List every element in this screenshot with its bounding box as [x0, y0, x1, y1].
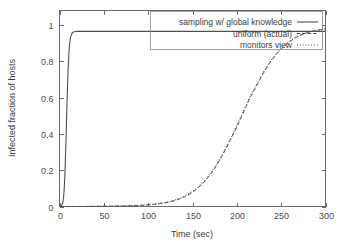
x-tick-label: 100	[141, 211, 156, 221]
y-tick-label: 0.4	[41, 130, 54, 140]
y-axis-title: Infected fraction of hosts	[7, 58, 17, 157]
x-tick-label: 250	[274, 211, 289, 221]
y-tick-label: 0.6	[41, 94, 54, 104]
x-axis-title: Time (sec)	[171, 229, 213, 239]
x-tick-label: 150	[186, 211, 201, 221]
y-tick-label: 0.2	[41, 166, 54, 176]
chart-page: 050100150200250300 00.20.40.60.81 Time (…	[0, 0, 349, 245]
x-tick-label: 200	[230, 211, 245, 221]
legend-label: uniform (actual)	[233, 29, 292, 39]
legend-label: sampling w/ global knowledge	[179, 17, 292, 27]
x-tick-label: 0	[58, 211, 63, 221]
y-tick-label: 0	[48, 203, 53, 213]
y-tick-label: 0.8	[41, 57, 54, 67]
line-chart: 050100150200250300 00.20.40.60.81 Time (…	[0, 0, 349, 245]
y-tick-label: 1	[48, 21, 53, 31]
x-tick-label: 50	[99, 211, 109, 221]
legend-label: monitors view	[240, 40, 293, 50]
x-tick-label: 300	[319, 211, 334, 221]
